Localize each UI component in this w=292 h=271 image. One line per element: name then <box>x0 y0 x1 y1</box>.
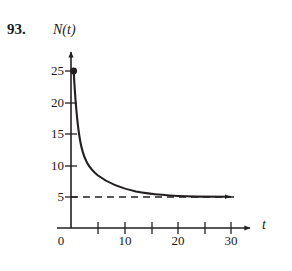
plot-svg <box>0 0 292 271</box>
decay-curve <box>74 71 230 197</box>
start-point-marker <box>70 68 77 75</box>
figure-container: 93. N(t) t 25 20 15 10 5 0 10 20 30 <box>0 0 292 271</box>
